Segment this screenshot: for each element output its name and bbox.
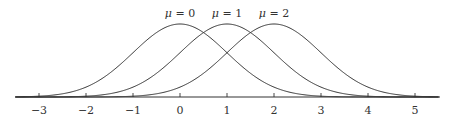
gaussian-chart: −3−2−1012345 μ = 0μ = 1μ = 2	[0, 0, 452, 122]
x-tick-label: −3	[31, 104, 47, 117]
x-tick-label: 3	[318, 104, 325, 117]
x-tick-label: −1	[125, 104, 141, 117]
curves-group	[16, 24, 439, 97]
series-label: μ = 1	[212, 7, 242, 20]
series-labels: μ = 0μ = 1μ = 2	[165, 7, 289, 20]
x-tick-label: −2	[78, 104, 94, 117]
curve-mu-1	[16, 24, 439, 97]
x-tick-label: 5	[412, 104, 419, 117]
x-tick-label: 0	[177, 104, 184, 117]
x-tick-label: 4	[365, 104, 372, 117]
series-label: μ = 0	[165, 7, 195, 20]
x-tick-label: 1	[224, 104, 231, 117]
series-label: μ = 2	[259, 7, 289, 20]
curve-mu-0	[16, 24, 439, 97]
curve-mu-2	[16, 24, 439, 97]
x-tick-label: 2	[271, 104, 278, 117]
